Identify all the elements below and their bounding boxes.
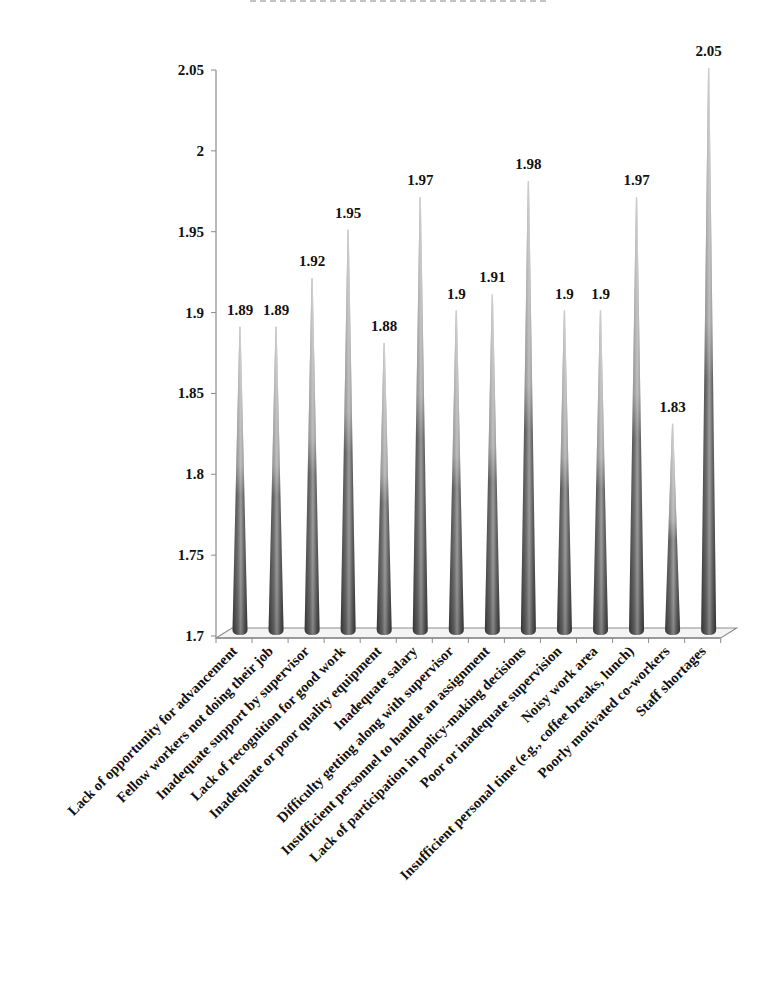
- cone-bar: [521, 181, 536, 635]
- data-label: 2.05: [696, 43, 722, 59]
- x-category-label: Inadequate support by supervisor: [152, 642, 312, 802]
- cone-bar: [593, 311, 608, 635]
- y-tick-label: 1.8: [185, 466, 204, 482]
- y-tick-label: 1.9: [185, 305, 204, 321]
- cone-bar: [629, 197, 644, 635]
- data-label: 1.89: [263, 302, 289, 318]
- data-label: 1.9: [591, 286, 610, 302]
- cone-bar: [557, 311, 572, 635]
- cone-bar: [449, 311, 464, 635]
- x-axis-category-labels: Lack of opportunity for advancementFello…: [64, 642, 709, 883]
- data-label: 1.83: [659, 399, 685, 415]
- data-label: 1.98: [515, 156, 541, 172]
- y-axis: 2.0521.951.91.851.81.751.7: [178, 62, 216, 644]
- cone-bar-chart: 2.0521.951.91.851.81.751.7 1.891.891.921…: [0, 0, 775, 997]
- y-tick-label: 1.7: [185, 628, 204, 644]
- y-tick-label: 2: [197, 143, 205, 159]
- data-label: 1.91: [479, 269, 505, 285]
- y-tick-label: 2.05: [178, 62, 204, 78]
- data-label: 1.88: [371, 318, 397, 334]
- cone-bar: [377, 343, 392, 635]
- chart-floor: [216, 628, 737, 643]
- y-tick-label: 1.95: [178, 224, 204, 240]
- data-label: 1.92: [299, 253, 325, 269]
- data-label: 1.97: [407, 172, 434, 188]
- cone-bar: [269, 327, 284, 635]
- data-label: 1.95: [335, 205, 361, 221]
- cone-bar: [305, 278, 320, 635]
- cone-bar: [665, 424, 680, 635]
- y-tick-label: 1.75: [178, 547, 204, 563]
- cone-bar: [701, 68, 716, 635]
- data-label: 1.97: [623, 172, 650, 188]
- cone-bar: [233, 327, 248, 635]
- data-label: 1.9: [555, 286, 574, 302]
- bar-series: [233, 68, 717, 635]
- data-label: 1.9: [447, 286, 466, 302]
- cone-bar: [341, 230, 356, 635]
- data-labels: 1.891.891.921.951.881.971.91.911.981.91.…: [227, 43, 722, 415]
- cone-bar: [485, 294, 500, 635]
- data-label: 1.89: [227, 302, 253, 318]
- y-tick-label: 1.85: [178, 385, 204, 401]
- cone-bar: [413, 197, 428, 635]
